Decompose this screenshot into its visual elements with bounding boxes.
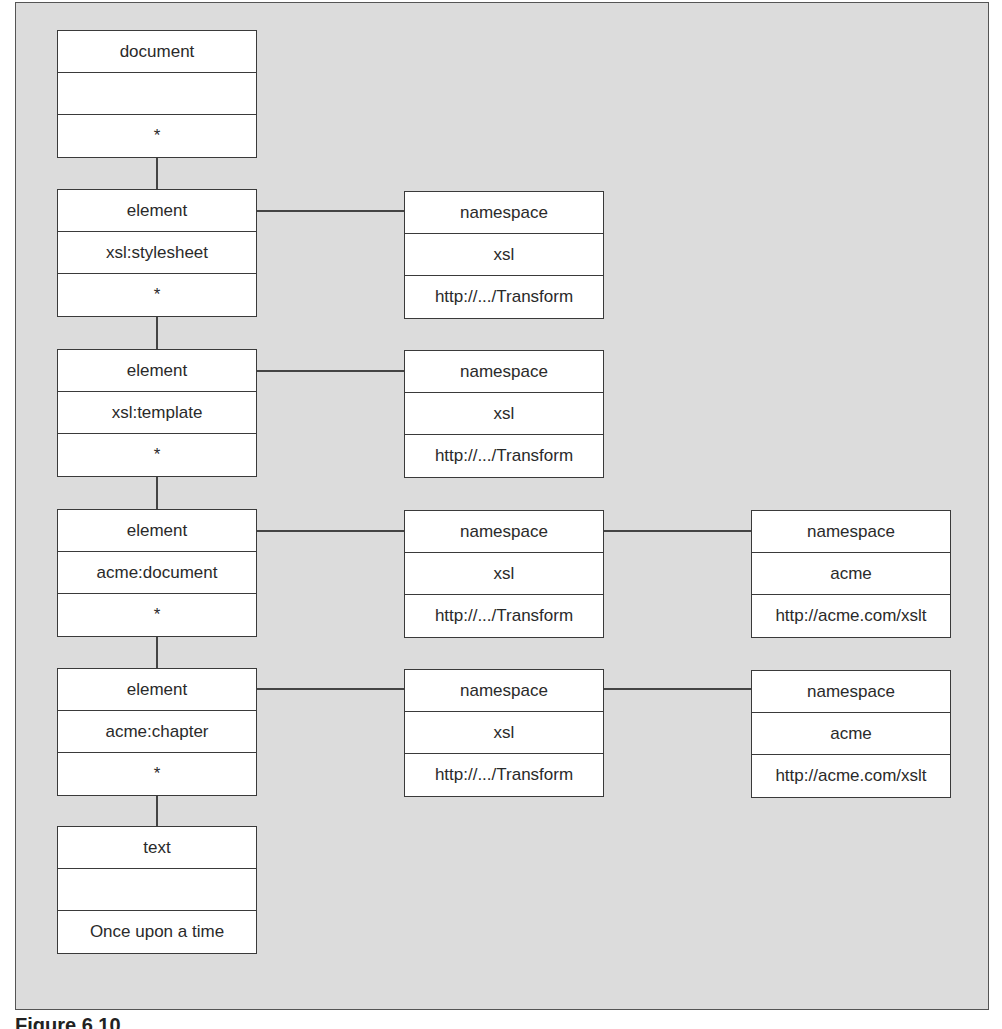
edge-template-acmedocument	[156, 475, 158, 509]
node-name: xsl:template	[58, 392, 256, 434]
node-name: acme:chapter	[58, 711, 256, 753]
edge-template-namespace	[256, 370, 404, 372]
node-name: xsl	[405, 712, 603, 754]
node-type: namespace	[405, 351, 603, 393]
node-text: text Once upon a time	[57, 826, 257, 954]
node-name: xsl:stylesheet	[58, 232, 256, 274]
node-value: http://.../Transform	[405, 276, 603, 318]
node-element-acme-document: element acme:document *	[57, 509, 257, 637]
node-element-stylesheet: element xsl:stylesheet *	[57, 189, 257, 317]
node-name: xsl	[405, 553, 603, 595]
node-type: namespace	[752, 671, 950, 713]
node-value: *	[58, 594, 256, 636]
node-value: *	[58, 434, 256, 476]
edge-namespace-acme-namespace-1	[604, 530, 751, 532]
node-name	[58, 73, 256, 115]
node-namespace-stylesheet: namespace xsl http://.../Transform	[404, 191, 604, 319]
edge-stylesheet-namespace	[256, 210, 404, 212]
node-name: acme:document	[58, 552, 256, 594]
node-namespace-document-xsl: namespace xsl http://.../Transform	[404, 510, 604, 638]
node-namespace-chapter-xsl: namespace xsl http://.../Transform	[404, 669, 604, 797]
edge-chapter-namespace	[256, 688, 404, 690]
node-type: namespace	[752, 511, 950, 553]
node-value: *	[58, 115, 256, 157]
node-type: element	[58, 350, 256, 392]
node-value: http://.../Transform	[405, 435, 603, 477]
edge-namespace-acme-namespace-2	[604, 688, 751, 690]
node-type: element	[58, 669, 256, 711]
node-value: *	[58, 753, 256, 795]
node-value: http://acme.com/xslt	[752, 595, 950, 637]
node-type: namespace	[405, 192, 603, 234]
node-type: text	[58, 827, 256, 869]
node-document: document *	[57, 30, 257, 158]
figure-caption: Figure 6.10	[15, 1014, 121, 1029]
edge-chapter-text	[156, 795, 158, 827]
edge-acmedocument-chapter	[156, 635, 158, 669]
node-type: document	[58, 31, 256, 73]
node-name: acme	[752, 553, 950, 595]
node-type: namespace	[405, 511, 603, 553]
node-namespace-template: namespace xsl http://.../Transform	[404, 350, 604, 478]
node-element-template: element xsl:template *	[57, 349, 257, 477]
node-namespace-document-acme: namespace acme http://acme.com/xslt	[751, 510, 951, 638]
node-value: http://acme.com/xslt	[752, 755, 950, 797]
node-type: element	[58, 510, 256, 552]
node-type: element	[58, 190, 256, 232]
node-value: *	[58, 274, 256, 316]
edge-document-stylesheet	[156, 156, 158, 190]
node-value: http://.../Transform	[405, 595, 603, 637]
node-name: xsl	[405, 234, 603, 276]
node-name: acme	[752, 713, 950, 755]
node-value: http://.../Transform	[405, 754, 603, 796]
node-type: namespace	[405, 670, 603, 712]
node-value: Once upon a time	[58, 911, 256, 953]
node-element-acme-chapter: element acme:chapter *	[57, 668, 257, 796]
edge-acmedocument-namespace	[256, 530, 404, 532]
node-namespace-chapter-acme: namespace acme http://acme.com/xslt	[751, 670, 951, 798]
node-name	[58, 869, 256, 911]
edge-stylesheet-template	[156, 315, 158, 349]
node-name: xsl	[405, 393, 603, 435]
